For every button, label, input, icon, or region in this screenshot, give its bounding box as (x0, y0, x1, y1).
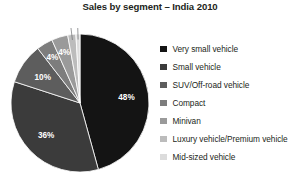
legend-item-label: Minivan (173, 117, 201, 126)
legend-item-label: SUV/Off-road vehicle (173, 81, 250, 90)
pie-value-label: 4% (46, 53, 59, 62)
legend-item-label: Very small vehicle (173, 45, 239, 54)
chart-legend: Very small vehicleSmall vehicleSUV/Off-r… (158, 40, 300, 166)
legend-item[interactable]: Minivan (158, 112, 300, 130)
pie-chart-plot-area: 48%36%10%4%4%2%1% (8, 28, 156, 178)
legend-item[interactable]: Luxury vehicle/Premium vehicle (158, 130, 300, 148)
legend-swatch-icon (160, 118, 167, 125)
legend-item[interactable]: Very small vehicle (158, 40, 300, 58)
legend-item-label: Mid-sized vehicle (173, 153, 236, 162)
legend-swatch-icon (160, 100, 167, 107)
legend-item-label: Small vehicle (173, 63, 221, 72)
legend-item[interactable]: Small vehicle (158, 58, 300, 76)
pie-value-label: 48% (118, 93, 135, 102)
legend-item[interactable]: Mid-sized vehicle (158, 148, 300, 166)
legend-item-label: Compact (173, 99, 206, 108)
pie-value-label: 36% (38, 131, 55, 140)
pie-slices-group (11, 34, 149, 172)
legend-swatch-icon (160, 154, 167, 161)
pie-chart-figure: Sales by segment – India 2010 48%36%10%4… (0, 0, 300, 181)
legend-item[interactable]: Compact (158, 94, 300, 112)
legend-swatch-icon (160, 64, 167, 71)
pie-value-label: 4% (58, 48, 71, 57)
legend-item[interactable]: SUV/Off-road vehicle (158, 76, 300, 94)
legend-swatch-icon (160, 136, 167, 143)
legend-swatch-icon (160, 82, 167, 89)
pie-value-label: 10% (35, 73, 52, 82)
chart-title: Sales by segment – India 2010 (0, 1, 300, 12)
legend-item-label: Luxury vehicle/Premium vehicle (173, 135, 288, 144)
legend-swatch-icon (160, 46, 167, 53)
pie-svg: 48%36%10%4%4%2%1% (8, 28, 156, 178)
